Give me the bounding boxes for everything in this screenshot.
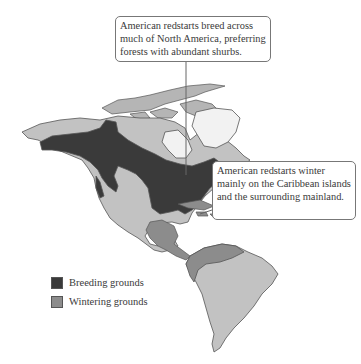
- wintering-swatch: [51, 296, 63, 308]
- breeding-swatch: [51, 277, 63, 289]
- legend-label-wintering: Wintering grounds: [69, 296, 148, 307]
- legend-item-wintering: Wintering grounds: [51, 293, 148, 310]
- wintering-callout: American redstarts winter mainly on the …: [212, 161, 356, 220]
- legend: Breeding grounds Wintering grounds: [51, 274, 148, 312]
- south-america: [186, 244, 278, 352]
- breeding-callout: American redstarts breed across much of …: [115, 16, 271, 62]
- legend-item-breeding: Breeding grounds: [51, 274, 148, 291]
- legend-label-breeding: Breeding grounds: [69, 277, 144, 288]
